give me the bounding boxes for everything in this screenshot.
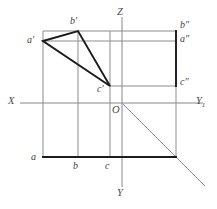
label-b-prime: b′ xyxy=(70,16,77,26)
label-axis-x: X xyxy=(8,96,14,107)
label-c: c xyxy=(105,161,109,171)
construction-lines-group xyxy=(43,31,176,157)
projection-drawing-svg xyxy=(0,0,217,209)
label-axis-y1: Y1 xyxy=(196,96,205,109)
engineering-drawing-canvas: a′ b′ c′ a b c b″ a″ c″ X Z Y Y1 O xyxy=(0,0,217,209)
label-axis-y1-subscript: 1 xyxy=(202,101,206,109)
label-a-double-prime: a″ xyxy=(180,34,189,44)
label-b-double-prime: b″ xyxy=(180,20,189,30)
frontal-triangle-abc xyxy=(43,31,110,86)
label-axis-z: Z xyxy=(117,7,123,18)
label-c-double-prime: c″ xyxy=(180,77,189,87)
forty-five-degree-bisector xyxy=(122,103,205,186)
label-b: b xyxy=(73,161,78,171)
label-axis-y: Y xyxy=(117,188,123,199)
label-a: a xyxy=(31,152,36,162)
label-c-prime: c′ xyxy=(97,84,104,94)
label-a-prime: a′ xyxy=(27,35,34,45)
label-origin-o: O xyxy=(112,105,120,116)
